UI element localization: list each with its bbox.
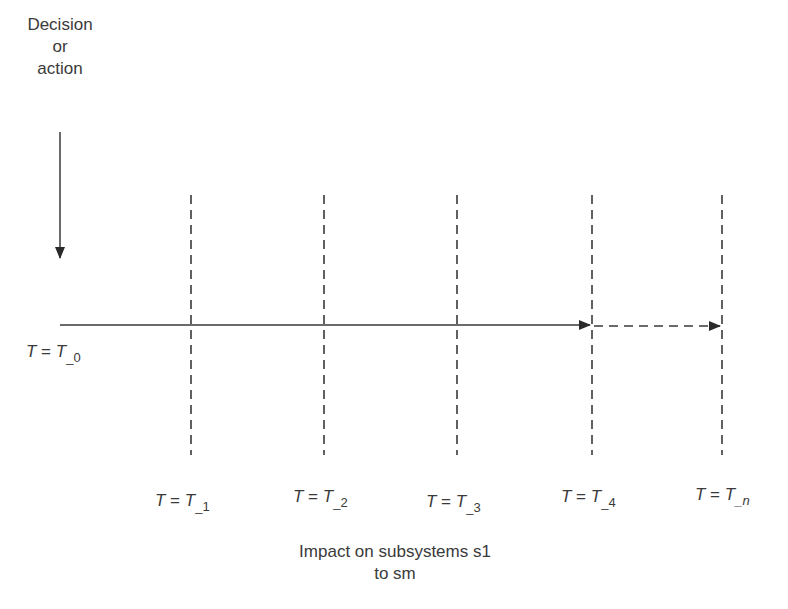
- t3-rhs: T: [456, 492, 466, 511]
- t2-eq: =: [303, 487, 322, 506]
- t3-sub: _3: [466, 500, 480, 515]
- time-label-t0: T = T_0: [26, 342, 81, 365]
- t3-eq: =: [436, 492, 455, 511]
- time-label-t3: T = T_3: [426, 492, 481, 515]
- t1-eq: =: [165, 491, 184, 510]
- time-label-t1: T = T_1: [155, 491, 210, 514]
- tn-rhs: T: [725, 485, 735, 504]
- t1-rhs: T: [185, 491, 195, 510]
- timeline-diagram: [0, 0, 788, 609]
- tn-sub: _n: [735, 493, 749, 508]
- impact-label: Impact on subsystems s1 to sm: [260, 541, 530, 585]
- t0-sub: _0: [66, 350, 80, 365]
- t0-rhs: T: [56, 342, 66, 361]
- impact-label-line1: Impact on subsystems s1: [260, 541, 530, 563]
- time-label-tn: T = T_n: [695, 485, 750, 508]
- decision-label: Decision or action: [10, 14, 110, 80]
- t4-lhs: T: [561, 487, 571, 506]
- t2-lhs: T: [293, 487, 303, 506]
- impact-label-line2: to sm: [260, 563, 530, 585]
- tn-eq: =: [705, 485, 724, 504]
- t1-sub: _1: [195, 499, 209, 514]
- decision-label-line2: or: [10, 36, 110, 58]
- t0-lhs: T: [26, 342, 36, 361]
- time-label-t2: T = T_2: [293, 487, 348, 510]
- time-label-t4: T = T_4: [561, 487, 616, 510]
- t2-sub: _2: [333, 495, 347, 510]
- t2-rhs: T: [323, 487, 333, 506]
- t0-eq: =: [36, 342, 55, 361]
- decision-label-line1: Decision: [10, 14, 110, 36]
- decision-label-line3: action: [10, 58, 110, 80]
- t1-lhs: T: [155, 491, 165, 510]
- t3-lhs: T: [426, 492, 436, 511]
- t4-sub: _4: [601, 495, 615, 510]
- t4-eq: =: [571, 487, 590, 506]
- t4-rhs: T: [591, 487, 601, 506]
- tn-lhs: T: [695, 485, 705, 504]
